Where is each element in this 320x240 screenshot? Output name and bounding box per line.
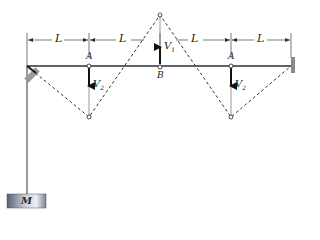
label-A-left: A <box>86 51 93 61</box>
label-L-3: L <box>191 32 198 45</box>
label-V2-right: V2 <box>235 78 246 91</box>
label-V1: V1 <box>164 40 175 53</box>
label-V2-left: V2 <box>93 78 104 91</box>
label-A-right: A <box>228 51 235 61</box>
label-B: B <box>157 70 164 80</box>
label-L-1: L <box>55 32 62 45</box>
right-wall <box>291 57 295 73</box>
label-M: M <box>21 195 32 206</box>
label-L-4: L <box>257 32 264 45</box>
label-L-2: L <box>119 32 126 45</box>
